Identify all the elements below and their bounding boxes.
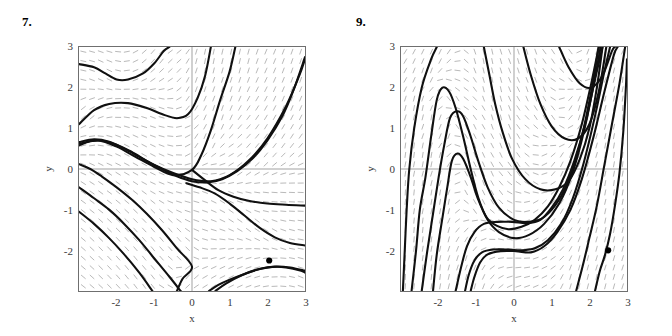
panel-9-plot-svg	[401, 47, 627, 291]
x-tick-label: 1	[227, 296, 233, 308]
figure-page: 7. -2-10123-2-10123 x y 9. -2-10123-2-10…	[0, 0, 672, 336]
panel-7-number: 7.	[22, 14, 32, 30]
x-tick-label: 3	[625, 296, 631, 308]
panel-9-plot-frame	[400, 46, 628, 292]
y-tick-label: 0	[56, 163, 73, 175]
y-tick-label: 0	[378, 163, 395, 175]
y-tick-label: -2	[378, 245, 395, 257]
panel-7-x-axis-label: x	[189, 312, 195, 324]
y-tick-label: 3	[378, 40, 395, 52]
panel-7-y-axis-label: y	[42, 166, 54, 172]
y-tick-label: -1	[56, 204, 73, 216]
y-tick-label: -1	[378, 204, 395, 216]
equilibrium-dot	[605, 247, 611, 253]
panel-7-plot-frame	[78, 46, 306, 292]
x-tick-label: 2	[587, 296, 593, 308]
panel-7: 7. -2-10123-2-10123 x y	[0, 0, 336, 336]
solution-curve	[79, 47, 211, 124]
y-tick-label: 2	[378, 81, 395, 93]
x-tick-label: -1	[471, 296, 480, 308]
panel-9-x-axis-label: x	[511, 312, 517, 324]
x-tick-label: 1	[549, 296, 555, 308]
solution-curve	[192, 170, 305, 206]
y-tick-label: 1	[378, 122, 395, 134]
x-tick-label: -2	[111, 296, 120, 308]
equilibrium-dot	[266, 257, 272, 263]
panel-7-plot-svg	[79, 47, 305, 291]
solution-curve	[79, 187, 181, 291]
y-tick-label: 1	[56, 122, 73, 134]
y-tick-label: -2	[56, 245, 73, 257]
x-tick-label: -2	[433, 296, 442, 308]
panel-9-number: 9.	[356, 14, 366, 30]
x-tick-label: -1	[149, 296, 158, 308]
y-tick-label: 2	[56, 81, 73, 93]
solution-curve	[79, 212, 152, 291]
x-tick-label: 0	[189, 296, 195, 308]
x-tick-label: 2	[265, 296, 271, 308]
panel-9: 9. -2-10123-2-10123 x y	[336, 0, 672, 336]
y-tick-label: 3	[56, 40, 73, 52]
solution-curve	[186, 183, 305, 245]
panel-9-y-axis-label: y	[364, 166, 376, 172]
x-tick-label: 0	[511, 296, 517, 308]
x-tick-label: 3	[303, 296, 309, 308]
